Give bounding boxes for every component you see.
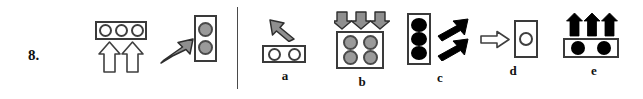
option-d-panel <box>514 20 538 58</box>
circle-black <box>571 41 585 55</box>
option-e-label: e <box>563 63 625 79</box>
option-a-label: a <box>257 68 313 84</box>
arrow-up-right-gray <box>160 38 194 64</box>
circle-hollow <box>288 48 301 61</box>
option-e-panel <box>563 38 619 58</box>
option-c-row <box>404 13 476 65</box>
arrow-up-right-black-pair <box>436 17 470 61</box>
stimulus-first-panel <box>95 21 147 40</box>
circle-gray <box>363 35 378 50</box>
item-number: 8. <box>28 47 39 64</box>
option-c-label: c <box>404 70 476 86</box>
puzzle-canvas: 8. a <box>0 0 643 99</box>
arrow-right-hollow <box>480 30 510 49</box>
circle-black <box>411 18 427 32</box>
circle-hollow <box>115 24 128 37</box>
arrow-up-black-triple <box>566 12 618 37</box>
circle-black <box>411 32 427 46</box>
option-e[interactable]: e <box>563 12 625 79</box>
option-d[interactable]: d <box>480 20 546 79</box>
circle-black <box>597 41 611 55</box>
option-c[interactable]: c <box>404 13 476 86</box>
option-d-label: d <box>480 63 546 79</box>
arrow-up-hollow-pair <box>98 41 146 73</box>
stimulus-second-arrow-group <box>160 38 194 64</box>
stimulus-second-panel <box>194 15 217 62</box>
circle-hollow <box>99 24 112 37</box>
circle-black <box>411 46 427 60</box>
arrow-up-left-gray <box>268 18 296 42</box>
circle-hollow <box>268 48 281 61</box>
circle-hollow <box>519 32 533 46</box>
circle-hollow <box>131 24 144 37</box>
circle-gray <box>198 22 213 37</box>
circle-gray <box>363 50 378 65</box>
divider <box>237 7 238 89</box>
option-b-panel <box>336 31 384 69</box>
circle-gray <box>198 40 213 55</box>
option-b-label: b <box>331 74 393 90</box>
stimulus-first-arrow-group <box>98 41 146 73</box>
circle-gray <box>343 35 358 50</box>
option-d-row <box>480 20 546 58</box>
option-b[interactable]: b <box>331 11 393 90</box>
option-c-panel <box>407 13 431 65</box>
arrow-down-gray-triple <box>334 11 390 30</box>
option-a[interactable]: a <box>257 18 313 84</box>
option-a-panel <box>262 45 306 63</box>
circle-gray <box>343 50 358 65</box>
